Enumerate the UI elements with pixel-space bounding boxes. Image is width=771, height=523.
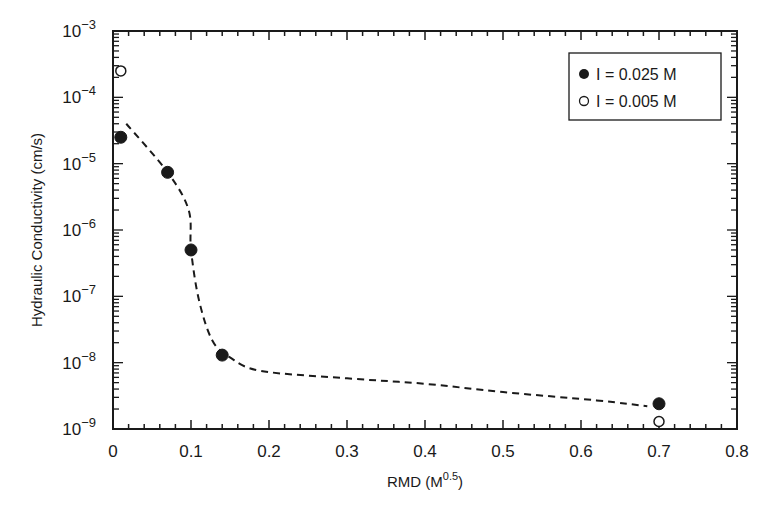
- x-tick-label: 0.5: [491, 442, 515, 461]
- x-axis-title-close: ): [458, 473, 463, 490]
- y-tick-label: 10−5: [62, 150, 96, 174]
- filled-data-point: [162, 166, 174, 178]
- y-tick-label: 10−4: [62, 83, 96, 107]
- hydraulic-conductivity-chart: 00.10.20.30.40.50.60.70.8 10−310−410−510…: [0, 0, 771, 523]
- y-tick-label: 10−6: [62, 216, 96, 240]
- x-axis-title-main: RMD (M: [387, 473, 443, 490]
- filled-data-point: [185, 244, 197, 256]
- x-tick-label: 0.7: [647, 442, 671, 461]
- dashed-trend-line: [126, 124, 647, 407]
- filled-data-point: [216, 349, 228, 361]
- x-tick-label: 0.3: [335, 442, 359, 461]
- x-tick-label: 0.6: [569, 442, 593, 461]
- legend-label-series-2: I = 0.005 M: [596, 93, 677, 110]
- x-tick-label: 0: [108, 442, 117, 461]
- y-axis-title: Hydraulic Conductivity (cm/s): [28, 133, 45, 327]
- filled-data-point: [653, 398, 665, 410]
- x-tick-label: 0.1: [179, 442, 203, 461]
- legend-label-series-1: I = 0.025 M: [596, 66, 677, 83]
- y-tick-label: 10−9: [62, 415, 96, 439]
- y-tick-label: 10−7: [62, 282, 96, 306]
- x-axis-title: RMD (M0.5): [387, 470, 463, 490]
- open-data-point: [116, 66, 126, 76]
- open-data-point: [654, 416, 664, 426]
- x-tick-label: 0.2: [257, 442, 281, 461]
- legend: I = 0.025 M I = 0.005 M: [569, 53, 721, 120]
- x-tick-label: 0.8: [725, 442, 749, 461]
- y-tick-label: 10−3: [62, 17, 96, 41]
- x-tick-label: 0.4: [413, 442, 437, 461]
- legend-open-circle-icon: [580, 97, 589, 106]
- legend-filled-circle-icon: [579, 69, 589, 79]
- filled-data-point: [115, 131, 127, 143]
- x-axis-title-superscript: 0.5: [443, 470, 458, 482]
- y-tick-label: 10−8: [62, 349, 96, 373]
